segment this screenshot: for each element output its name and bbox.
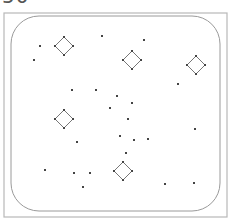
diamond-vertex xyxy=(63,36,65,38)
board-point[interactable] xyxy=(39,45,41,47)
board-point[interactable] xyxy=(109,107,111,109)
board-point[interactable] xyxy=(101,35,103,37)
diamond-vertex xyxy=(131,68,133,70)
diamond-vertex xyxy=(113,170,115,172)
diamond-vertex xyxy=(140,59,142,61)
point-layer xyxy=(33,35,196,188)
diamond-shape[interactable] xyxy=(54,109,74,129)
diamond-shape[interactable] xyxy=(54,36,74,56)
diamond-shape[interactable] xyxy=(186,55,206,75)
board-point[interactable] xyxy=(73,172,75,174)
diamond-shape[interactable] xyxy=(122,50,142,70)
board-point[interactable] xyxy=(133,139,135,141)
board-point[interactable] xyxy=(44,169,46,171)
diamond-shape[interactable] xyxy=(113,161,133,181)
game-board[interactable] xyxy=(0,0,230,219)
diamond-vertex xyxy=(72,118,74,120)
diamond-vertex xyxy=(195,55,197,57)
board-point[interactable] xyxy=(71,89,73,91)
diamond-vertex xyxy=(63,54,65,56)
diamond-vertex xyxy=(131,50,133,52)
board-point[interactable] xyxy=(164,183,166,185)
diamond-vertex xyxy=(204,64,206,66)
diamond-vertex xyxy=(122,59,124,61)
board-point[interactable] xyxy=(89,172,91,174)
diamond-vertex xyxy=(122,179,124,181)
diamond-vertex xyxy=(63,127,65,129)
board-outer-frame xyxy=(4,13,227,217)
board-point[interactable] xyxy=(127,118,129,120)
diamond-vertex xyxy=(186,64,188,66)
board-point[interactable] xyxy=(95,89,97,91)
board-point[interactable] xyxy=(125,152,127,154)
board-point[interactable] xyxy=(119,135,121,137)
board-point[interactable] xyxy=(194,128,196,130)
board-point[interactable] xyxy=(82,186,84,188)
board-point[interactable] xyxy=(193,182,195,184)
board-point[interactable] xyxy=(116,95,118,97)
diamond-vertex xyxy=(72,45,74,47)
board-play-area xyxy=(11,16,220,211)
diamond-vertex xyxy=(195,73,197,75)
board-point[interactable] xyxy=(33,59,35,61)
diamond-vertex xyxy=(131,170,133,172)
diamond-layer xyxy=(54,36,206,181)
board-point[interactable] xyxy=(131,102,133,104)
board-point[interactable] xyxy=(177,83,179,85)
board-point[interactable] xyxy=(143,39,145,41)
diamond-vertex xyxy=(122,161,124,163)
board-point[interactable] xyxy=(76,141,78,143)
diamond-vertex xyxy=(54,45,56,47)
diamond-vertex xyxy=(54,118,56,120)
board-point[interactable] xyxy=(147,138,149,140)
diamond-vertex xyxy=(63,109,65,111)
